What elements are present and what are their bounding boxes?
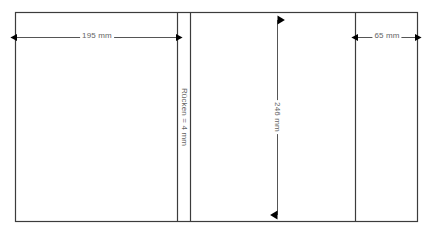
layout-drawing [0, 0, 431, 238]
diagram-canvas: 195 mm 65 mm Rücken = 4 mm 246 mm [0, 0, 431, 238]
cover-outer-frame [16, 13, 418, 222]
label-back-cover-width: 195 mm [80, 32, 114, 41]
label-flap-width: 65 mm [372, 32, 401, 41]
label-spine-width: Rücken = 4 mm [180, 86, 189, 148]
label-cover-height: 246 mm [273, 100, 282, 134]
